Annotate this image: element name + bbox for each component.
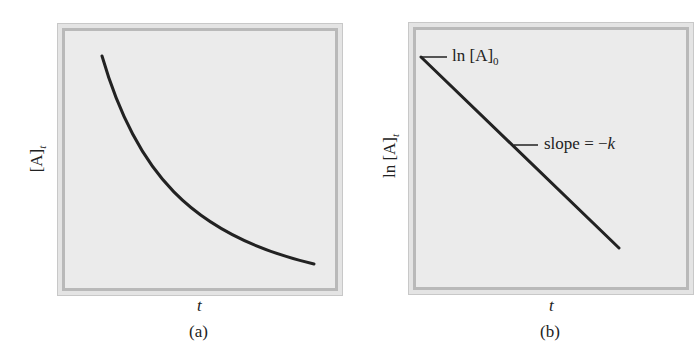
caption-b: (b): [540, 322, 560, 342]
slope-annotation: slope = −k: [544, 134, 615, 154]
linear-plot-b: [0, 0, 696, 359]
intercept-annotation: ln [A]0: [452, 46, 499, 67]
x-axis-label-b: t: [549, 296, 554, 316]
y-axis-label-b: ln [A]t: [380, 121, 402, 191]
